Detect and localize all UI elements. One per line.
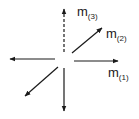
label-m2-sub: (2) xyxy=(117,34,127,43)
arrow-down-left xyxy=(25,67,58,96)
label-m3-base: m xyxy=(77,4,88,19)
vector-diagram: m(3) m(2) m(1) xyxy=(0,0,139,119)
arrow-m2-up-right xyxy=(72,28,102,53)
vector-diagram-svg xyxy=(0,0,139,119)
label-m1: m(1) xyxy=(108,66,129,79)
label-m1-base: m xyxy=(108,65,119,80)
label-m2: m(2) xyxy=(106,27,127,40)
label-m1-sub: (1) xyxy=(119,73,129,82)
label-m3: m(3) xyxy=(77,5,98,18)
label-m3-sub: (3) xyxy=(88,12,98,21)
label-m2-base: m xyxy=(106,26,117,41)
